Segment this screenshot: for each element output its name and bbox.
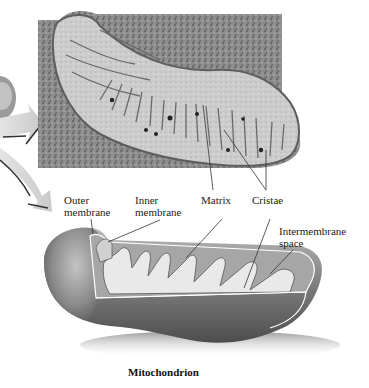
mitochondrion-figure: Outer membrane Inner membrane Matrix Cri… bbox=[0, 0, 369, 388]
label-inner-membrane-line2: membrane bbox=[135, 206, 181, 218]
label-outer-membrane-line1: Outer bbox=[64, 194, 110, 206]
label-intermembrane-space-line2: space bbox=[279, 237, 346, 249]
label-intermembrane-space-line1: Intermembrane bbox=[279, 225, 346, 237]
label-cristae: Cristae bbox=[252, 194, 283, 206]
label-inner-membrane: Inner membrane bbox=[135, 194, 181, 218]
electron-micrograph bbox=[38, 11, 300, 168]
figure-artwork bbox=[0, 0, 369, 388]
label-inner-membrane-line1: Inner bbox=[135, 194, 181, 206]
figure-title: Mitochondrion bbox=[128, 366, 199, 378]
label-outer-membrane-line2: membrane bbox=[64, 206, 110, 218]
label-intermembrane-space: Intermembrane space bbox=[279, 225, 346, 249]
label-outer-membrane: Outer membrane bbox=[64, 194, 110, 218]
cell-fragment bbox=[0, 76, 16, 120]
label-matrix: Matrix bbox=[201, 194, 231, 206]
